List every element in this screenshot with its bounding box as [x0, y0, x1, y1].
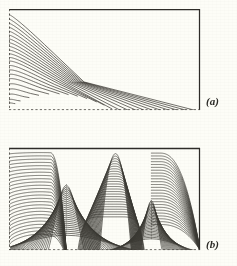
- panel-b-contours: [9, 153, 200, 250]
- panel-a-contours: [9, 15, 194, 110]
- panel-a: [9, 9, 200, 110]
- panel-b: [9, 148, 200, 250]
- contour-figure: (a) (b): [0, 0, 237, 266]
- panel-a-label: (a): [206, 95, 219, 107]
- panel-b-label: (b): [206, 238, 219, 250]
- contour-figure-canvas: [0, 0, 237, 266]
